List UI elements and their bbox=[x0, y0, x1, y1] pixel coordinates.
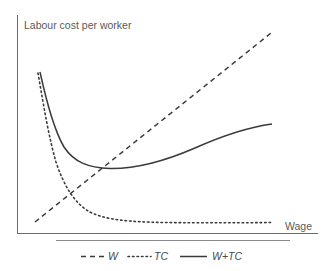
y-axis-label: Labour cost per worker bbox=[24, 19, 132, 31]
chart-container: Labour cost per worker Wage W TC W+TC bbox=[0, 0, 331, 271]
x-axis-label: Wage bbox=[285, 220, 312, 232]
legend-label-tc: TC bbox=[154, 250, 168, 262]
legend-label-w: W bbox=[108, 250, 119, 262]
labour-cost-chart: Labour cost per worker Wage W TC W+TC bbox=[0, 0, 331, 271]
legend-label-wtc: W+TC bbox=[212, 250, 242, 262]
